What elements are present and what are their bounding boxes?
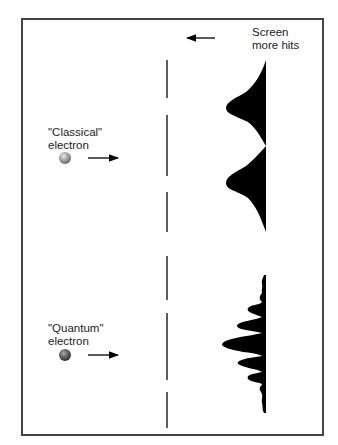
quantum-interference-pattern: [222, 275, 266, 413]
quantum-electron-icon: [59, 349, 71, 361]
diagram-graphics: [0, 0, 338, 445]
classical-electron-icon: [59, 152, 71, 164]
classical-hit-distribution: [226, 60, 266, 232]
